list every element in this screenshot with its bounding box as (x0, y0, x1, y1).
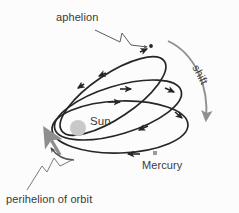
mercury-marker (153, 151, 157, 155)
orbit1-arrow-a (78, 84, 84, 88)
orbit-ellipse-2 (48, 68, 188, 152)
aphelion-leader-line (95, 30, 147, 47)
sun-marker (70, 120, 86, 136)
orbit2-arrow-b (165, 88, 174, 92)
orbit-precession-diagram: aphelion Sun Mercury perihelion of orbit… (0, 0, 239, 213)
diagram-canvas (0, 0, 239, 213)
label-aphelion: aphelion (56, 12, 98, 23)
orbit-ellipse-1 (49, 43, 176, 149)
perihelion-leader-line (27, 158, 72, 190)
orbit1-arrow-c (140, 49, 147, 52)
label-mercury: Mercury (142, 160, 182, 171)
label-sun: Sun (90, 116, 111, 128)
label-perihelion-of-orbit: perihelion of orbit (6, 194, 92, 205)
aphelion-point (149, 44, 153, 48)
